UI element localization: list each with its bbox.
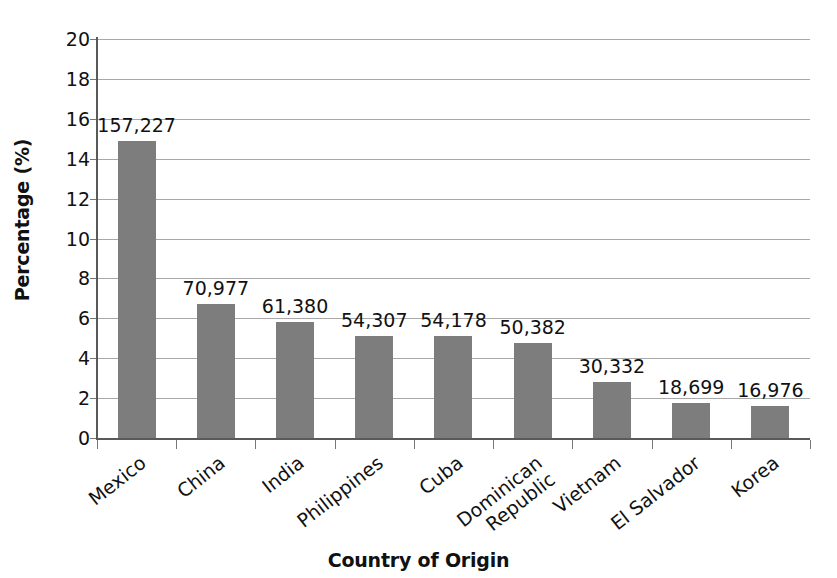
x-axis-tick-mark: [810, 440, 811, 449]
bar[interactable]: [276, 322, 314, 438]
x-axis-tick-mark: [335, 440, 336, 449]
bar-group: 61,380: [255, 39, 334, 438]
bar[interactable]: [514, 343, 552, 438]
x-axis-tick-mark: [414, 440, 415, 449]
x-axis-tick-mark: [652, 440, 653, 449]
y-axis-tick-label: 2: [44, 387, 90, 409]
bar-value-label: 70,977: [183, 277, 249, 299]
x-axis-tick-mark: [176, 440, 177, 449]
bar[interactable]: [118, 141, 156, 438]
bar-group: 16,976: [731, 39, 810, 438]
y-axis-tick-label: 10: [44, 228, 90, 250]
y-axis-tick-label: 8: [44, 267, 90, 289]
y-axis-tick-labels: 02468101214161820: [36, 39, 90, 438]
x-axis-tick-mark: [572, 440, 573, 449]
y-axis-tick-label: 20: [44, 28, 90, 50]
bar-value-label: 50,382: [499, 316, 565, 338]
bar-group: 18,699: [652, 39, 731, 438]
x-axis-tick-mark: [731, 440, 732, 449]
x-axis-tick-mark: [493, 440, 494, 449]
bar-value-label: 61,380: [262, 295, 328, 317]
y-axis-tick-label: 12: [44, 188, 90, 210]
bar-group: 30,332: [572, 39, 651, 438]
bar[interactable]: [672, 403, 710, 438]
bar-group: 54,178: [414, 39, 493, 438]
bar[interactable]: [751, 406, 789, 438]
x-axis-title-text: Country of Origin: [328, 549, 510, 571]
plot-area: 157,22770,97761,38054,30754,17850,38230,…: [97, 39, 810, 438]
bar-group: 50,382: [493, 39, 572, 438]
bar-group: 70,977: [176, 39, 255, 438]
x-axis-title: Country of Origin: [0, 549, 837, 571]
bar[interactable]: [355, 336, 393, 438]
bar[interactable]: [197, 304, 235, 438]
bar-value-label: 18,699: [658, 376, 724, 398]
bar[interactable]: [434, 336, 472, 438]
y-axis-tick-label: 18: [44, 68, 90, 90]
x-axis-line: [96, 438, 810, 440]
y-axis-tick-label: 4: [44, 347, 90, 369]
x-axis-tick-mark: [255, 440, 256, 449]
y-axis-tick-label: 16: [44, 108, 90, 130]
x-axis-tick-mark: [97, 440, 98, 449]
bar[interactable]: [593, 382, 631, 438]
bar-chart: Percentage (%) 157,22770,97761,38054,307…: [0, 0, 837, 578]
bar-value-label: 54,307: [341, 309, 407, 331]
y-axis-tick-label: 6: [44, 307, 90, 329]
bar-value-label: 157,227: [97, 114, 176, 136]
y-axis-line: [96, 37, 98, 440]
bar-group: 54,307: [335, 39, 414, 438]
bar-value-label: 30,332: [579, 355, 645, 377]
bar-value-label: 54,178: [420, 309, 486, 331]
y-axis-tick-label: 14: [44, 148, 90, 170]
bar-value-label: 16,976: [737, 379, 803, 401]
bar-group: 157,227: [97, 39, 176, 438]
y-axis-title-text: Percentage (%): [11, 139, 33, 301]
y-axis-tick-label: 0: [44, 427, 90, 449]
